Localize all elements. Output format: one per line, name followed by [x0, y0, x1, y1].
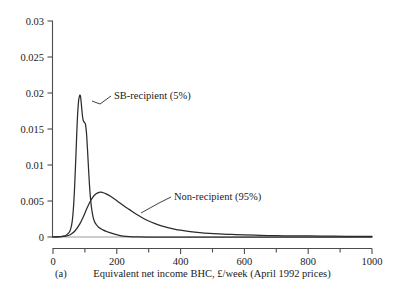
- y-tick-label: 0.025: [20, 52, 44, 63]
- chart-figure: 00.0050.010.0150.020.0250.03 02004006008…: [0, 0, 394, 297]
- annotation-non-recipient: Non-recipient (95%): [174, 191, 262, 203]
- x-tick-label: 400: [173, 256, 189, 267]
- x-tick-label: 200: [109, 256, 125, 267]
- x-tick-label: 1000: [362, 256, 383, 267]
- x-tick-label: 800: [300, 256, 316, 267]
- y-tick-label: 0.015: [20, 124, 44, 135]
- y-tick-label: 0.02: [26, 88, 44, 99]
- plot-background: [0, 0, 394, 297]
- density-plot: 00.0050.010.0150.020.0250.03 02004006008…: [0, 0, 394, 297]
- annotation-sb-recipient: SB-recipient (5%): [114, 90, 191, 102]
- y-tick-label: 0: [39, 232, 44, 243]
- x-axis-title: Equivalent net income BHC, £/week (April…: [93, 268, 331, 280]
- panel-label: (a): [55, 268, 67, 280]
- y-tick-label: 0.01: [26, 160, 44, 171]
- y-tick-label: 0.03: [26, 16, 44, 27]
- x-tick-label: 600: [237, 256, 253, 267]
- y-tick-label: 0.005: [20, 196, 44, 207]
- x-tick-label: 0: [50, 256, 55, 267]
